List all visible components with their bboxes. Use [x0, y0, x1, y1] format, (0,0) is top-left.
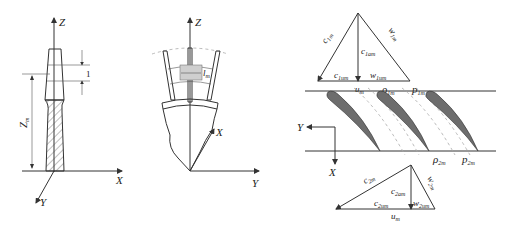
w1um-label: w1um [370, 70, 387, 81]
z-axis-label-a: Z [59, 16, 66, 28]
um-label-2: um [391, 211, 401, 222]
cascade-blade-3 [426, 91, 478, 151]
w1m-vector [358, 13, 410, 81]
x-axis-label-a: X [115, 174, 124, 186]
zm-arrow-bottom [30, 164, 34, 169]
w2m-label: w2m [424, 174, 440, 192]
figure-b-disk-sector: Z Y X lm [152, 16, 260, 189]
w2um-label: w2um [413, 198, 430, 209]
y-axis-label-b: Y [252, 177, 260, 189]
diagram-canvas: Z X Y 1 Zm Z Y X [0, 0, 512, 230]
shaded-strip [180, 65, 202, 80]
rho2m-label: ρ2m [432, 153, 446, 166]
p2m-label: p2m [461, 153, 476, 166]
c2m-label: c2m [361, 171, 377, 187]
cascade-blade-2 [377, 91, 429, 151]
inlet-velocity-triangle: c1m w1m c1am c1um w1um um [318, 13, 410, 95]
c2am-label: c2am [391, 186, 406, 197]
c1m-vector [318, 13, 358, 81]
zm-arrow-top [30, 75, 34, 80]
zm-label: Zm [17, 117, 30, 128]
c1um-label: c1um [334, 70, 349, 81]
x-axis-label-b: X [215, 126, 224, 138]
w1m-label: w1m [386, 25, 403, 43]
c1m-label: c1m [319, 30, 335, 46]
x-axis-label-c: X [328, 166, 337, 178]
figure-a-blade-side-view: Z X Y 1 Zm [17, 16, 124, 208]
outlet-velocity-triangle: c2m w2m c2am c2um w2um um [336, 165, 441, 222]
blade-root-hatched [45, 100, 64, 171]
figure-c-cascade: c1m w1m c1am c1um w1um um ρ1m p1m Y X ρ2… [297, 13, 496, 222]
dimension-label-1: 1 [86, 69, 91, 79]
sector-blade-left [163, 51, 175, 100]
c2um-label: c2um [374, 198, 389, 209]
y-axis-label-a: Y [40, 196, 48, 208]
lm-label: lm [203, 68, 211, 79]
y-axis-label-c: Y [297, 121, 305, 133]
c1am-label: c1am [361, 46, 376, 57]
z-axis-label-b: Z [195, 16, 202, 28]
